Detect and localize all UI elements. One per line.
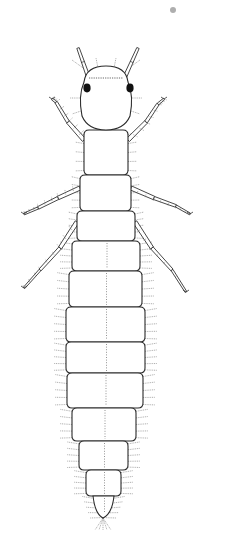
abdominal-segment [79, 441, 128, 470]
leg-segment [153, 196, 176, 207]
leg-segment [171, 269, 187, 292]
leg-right [130, 186, 193, 215]
seta-right [142, 273, 154, 275]
seta-left [54, 316, 66, 317]
thoracic-segment [84, 130, 128, 175]
seta-right [128, 455, 140, 456]
abdominal-segment [72, 241, 140, 271]
seta-right [142, 288, 154, 289]
seta-left [75, 142, 84, 143]
seta-left [54, 350, 66, 351]
seta-right [121, 482, 133, 483]
leg-segment [175, 205, 190, 215]
seta-right [145, 324, 157, 325]
seta-left [54, 357, 66, 358]
abdominal-segment [93, 496, 114, 518]
seta-left [74, 471, 86, 473]
abdominal-segment [66, 307, 145, 342]
seta-left [68, 219, 77, 220]
seta-right [143, 375, 155, 377]
seta-right [128, 448, 140, 449]
leg-segment [24, 207, 39, 215]
seta-tip [95, 518, 103, 530]
seta-left [68, 212, 77, 214]
abdominal-segment [69, 271, 142, 307]
seta-right [143, 382, 155, 383]
seta-left [57, 273, 69, 275]
seta-left [54, 343, 66, 345]
seta-right [131, 184, 140, 185]
seta-right [135, 219, 144, 220]
thoracic-segment [80, 175, 131, 211]
seta-right [121, 476, 133, 477]
seta-left [71, 184, 80, 185]
seta-right [145, 343, 157, 345]
seta-right [145, 357, 157, 358]
leg-segment [23, 269, 41, 288]
seta-left [71, 177, 80, 179]
seta-right [136, 417, 148, 418]
seta-right [113, 496, 125, 498]
seta-right [142, 280, 154, 281]
leg-segment [130, 186, 155, 200]
seta-left [82, 496, 94, 498]
head-capsule [80, 66, 131, 130]
seta-right [128, 152, 137, 153]
abdominal-segment [67, 373, 143, 408]
seta-right [135, 212, 144, 214]
seta-right [145, 309, 157, 311]
leg-segment [151, 247, 173, 271]
abdominal-segment [72, 408, 136, 441]
abdominal-segment [66, 342, 145, 373]
eye-icon [83, 84, 90, 93]
seta-tip [103, 518, 107, 530]
seta-left [55, 390, 67, 391]
leg-segment [67, 121, 86, 142]
head [80, 66, 131, 130]
seta-left [57, 280, 69, 281]
claw-icon [161, 97, 167, 99]
ink-speck-dot [170, 7, 176, 13]
seta-left [57, 288, 69, 289]
seta-left [54, 324, 66, 325]
seta-left [60, 409, 72, 411]
seta-right [128, 442, 140, 444]
seta-left [67, 455, 79, 456]
seta-right [131, 177, 140, 179]
seta-left [67, 442, 79, 444]
seta-left [60, 255, 72, 256]
seta-right [136, 409, 148, 411]
seta-left [75, 152, 84, 153]
seta-left [74, 476, 86, 477]
seta-tip [99, 518, 103, 530]
abdominal-segment [86, 470, 121, 496]
leg-right [127, 97, 167, 141]
seta-right [121, 471, 133, 473]
seta-left [67, 448, 79, 449]
leg-segment [157, 98, 164, 105]
leg-left [21, 186, 81, 215]
seta-left [55, 382, 67, 383]
seta-right [143, 390, 155, 391]
seta-right [140, 255, 152, 256]
seta-right [128, 142, 137, 143]
seta-right [145, 316, 157, 317]
seta-left [55, 375, 67, 377]
seta-left [54, 309, 66, 311]
larva-illustration [0, 0, 227, 547]
leg-segment [39, 247, 61, 271]
seta-left [60, 424, 72, 425]
seta-tip [103, 518, 111, 530]
leg-segment [55, 101, 70, 123]
leg-segment [127, 121, 148, 142]
thoracic-segment [77, 211, 135, 241]
seta-left [60, 417, 72, 418]
eye-icon [126, 84, 133, 93]
seta-right [145, 350, 157, 351]
seta-left [74, 482, 86, 483]
ink-speck [170, 7, 176, 13]
leg-segment [145, 103, 159, 123]
seta-right [136, 424, 148, 425]
claw-icon [49, 97, 55, 99]
larva-drawing [0, 0, 227, 547]
